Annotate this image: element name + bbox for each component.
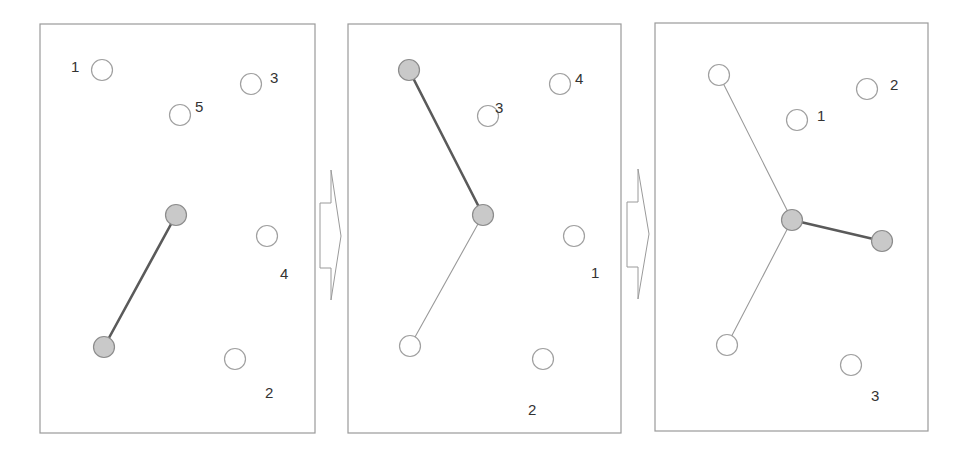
right-arrow-icon [320, 170, 341, 300]
active-tree-node [399, 60, 420, 81]
candidate-rank-label: 5 [195, 98, 203, 115]
candidate-node [857, 79, 878, 100]
active-tree-node [166, 205, 187, 226]
active-tree-node [782, 210, 803, 231]
candidate-rank-label: 4 [280, 265, 288, 282]
panel-step-1: 15342 [40, 24, 315, 433]
candidate-node [550, 74, 571, 95]
candidate-node [787, 110, 808, 131]
candidate-rank-label: 2 [265, 384, 273, 401]
candidate-node [170, 105, 191, 126]
candidate-rank-label: 1 [591, 264, 599, 281]
tree-node [717, 335, 738, 356]
candidate-rank-label: 3 [871, 387, 879, 404]
candidate-node [564, 226, 585, 247]
candidate-rank-label: 1 [817, 107, 825, 124]
candidate-rank-label: 1 [71, 58, 79, 75]
candidate-node [241, 74, 262, 95]
candidate-rank-label: 2 [528, 401, 536, 418]
panel-step-2: 3412 [348, 24, 621, 433]
right-arrow-icon [627, 169, 649, 299]
active-tree-node [94, 337, 115, 358]
tree-node [709, 65, 730, 86]
candidate-node [533, 349, 554, 370]
candidate-rank-label: 3 [270, 69, 278, 86]
panel-step-3: 123 [655, 23, 928, 431]
diagram-canvas: 153423412123 [0, 0, 969, 455]
candidate-rank-label: 3 [495, 99, 503, 116]
candidate-node [92, 60, 113, 81]
tree-node [400, 336, 421, 357]
candidate-rank-label: 4 [575, 70, 583, 87]
active-tree-node [872, 231, 893, 252]
candidate-node [841, 355, 862, 376]
candidate-node [257, 226, 278, 247]
candidate-rank-label: 2 [890, 76, 898, 93]
active-tree-node [473, 205, 494, 226]
candidate-node [225, 349, 246, 370]
